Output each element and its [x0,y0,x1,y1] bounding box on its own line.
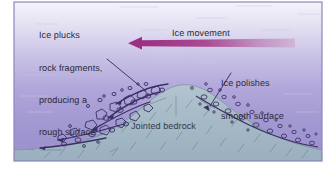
diagram-figure: Ice plucks rock fragments, producing a r… [0,0,336,173]
diagram-canvas [14,2,322,161]
glacial-erosion-illustration [0,0,336,173]
